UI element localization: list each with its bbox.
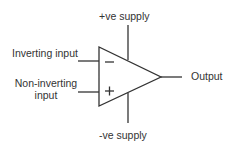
inverting-input-label: Inverting input xyxy=(12,47,78,59)
op-amp-triangle xyxy=(99,47,161,106)
non-inverting-input-label-line1: Non-inverting xyxy=(14,77,78,89)
non-inverting-input-label-line2: input xyxy=(14,89,78,101)
negative-supply-label: -ve supply xyxy=(99,129,147,141)
output-label: Output xyxy=(191,70,223,82)
plus-sign-icon xyxy=(105,87,114,96)
positive-supply-label: +ve supply xyxy=(99,10,150,22)
